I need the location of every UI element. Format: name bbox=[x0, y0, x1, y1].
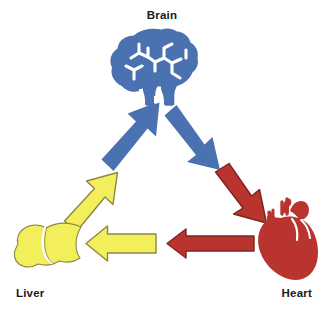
node-label-brain: Brain bbox=[0, 10, 324, 22]
arrow-brain-to-heart-blue bbox=[165, 105, 221, 170]
liver-icon bbox=[14, 223, 81, 267]
heart-icon bbox=[258, 199, 318, 280]
arrow-brain-to-heart-red bbox=[216, 164, 267, 224]
arrow-liver-to-brain-yellow bbox=[65, 173, 118, 232]
diagram-canvas bbox=[0, 0, 324, 309]
brain-icon bbox=[110, 28, 198, 106]
arrow-heart-to-liver-yellow bbox=[86, 226, 156, 261]
arrow-liver-to-brain-blue bbox=[102, 103, 160, 172]
node-label-liver: Liver bbox=[16, 288, 45, 300]
arrow-heart-to-liver-red bbox=[167, 229, 254, 258]
node-label-heart: Heart bbox=[282, 288, 312, 300]
organ-cycle-diagram: Brain Liver Heart bbox=[0, 0, 324, 309]
